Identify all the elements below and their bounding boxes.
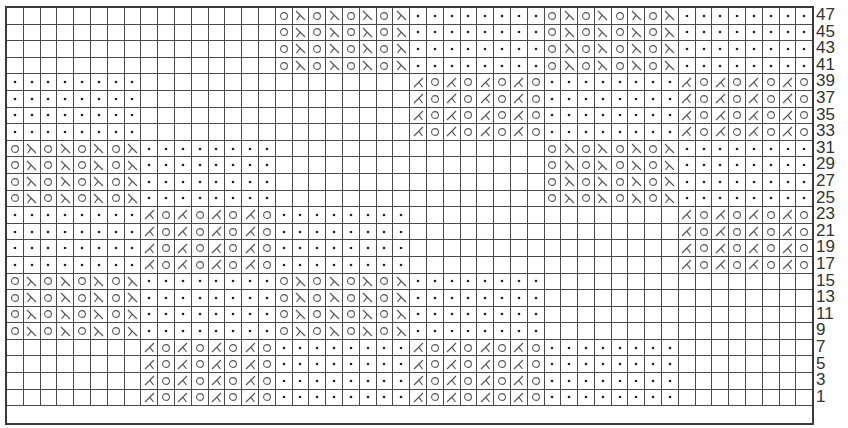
yarn-over-circle-icon xyxy=(527,90,544,107)
yarn-over-circle-icon xyxy=(796,207,813,224)
knit-cell xyxy=(477,240,494,257)
yarn-over-circle-icon xyxy=(527,107,544,124)
knit-cell xyxy=(57,389,74,406)
knit-cell xyxy=(410,240,427,257)
purl-dot-icon xyxy=(779,7,796,24)
knit-cell xyxy=(376,190,393,207)
knit-cell xyxy=(292,190,309,207)
purl-dot-icon xyxy=(275,356,292,373)
knit-cell xyxy=(645,273,662,290)
purl-dot-icon xyxy=(494,306,511,323)
k2tog-decrease-icon xyxy=(242,240,259,257)
purl-dot-icon xyxy=(124,240,141,257)
knit-cell xyxy=(695,323,712,340)
knit-cell xyxy=(443,223,460,240)
yarn-over-circle-icon xyxy=(107,190,124,207)
knit-cell xyxy=(695,306,712,323)
row-label: 1 xyxy=(816,389,825,406)
k2tog-decrease-icon xyxy=(779,207,796,224)
purl-dot-icon xyxy=(359,339,376,356)
purl-dot-icon xyxy=(191,273,208,290)
purl-dot-icon xyxy=(477,306,494,323)
yarn-over-circle-icon xyxy=(611,190,628,207)
purl-dot-icon xyxy=(57,90,74,107)
ssk-decrease-icon xyxy=(292,24,309,41)
yarn-over-circle-icon xyxy=(796,223,813,240)
purl-dot-icon xyxy=(678,190,695,207)
knit-cell xyxy=(141,24,158,41)
yarn-over-circle-icon xyxy=(695,124,712,141)
k2tog-decrease-icon xyxy=(410,339,427,356)
purl-dot-icon xyxy=(292,256,309,273)
ssk-decrease-icon xyxy=(23,306,40,323)
knit-cell xyxy=(796,339,813,356)
yarn-over-circle-icon xyxy=(258,223,275,240)
yarn-over-circle-icon xyxy=(645,173,662,190)
knit-cell xyxy=(561,273,578,290)
purl-dot-icon xyxy=(242,323,259,340)
k2tog-decrease-icon xyxy=(746,124,763,141)
purl-dot-icon xyxy=(57,207,74,224)
k2tog-decrease-icon xyxy=(174,389,191,406)
knit-cell xyxy=(393,157,410,174)
purl-dot-icon xyxy=(645,107,662,124)
purl-dot-icon xyxy=(477,41,494,58)
ssk-decrease-icon xyxy=(393,306,410,323)
purl-dot-icon xyxy=(141,140,158,157)
knit-cell xyxy=(729,373,746,390)
purl-dot-icon xyxy=(141,173,158,190)
yarn-over-circle-icon xyxy=(158,240,175,257)
yarn-over-circle-icon xyxy=(191,373,208,390)
yarn-over-circle-icon xyxy=(275,57,292,74)
knit-cell xyxy=(628,290,645,307)
purl-dot-icon xyxy=(695,190,712,207)
k2tog-decrease-icon xyxy=(678,240,695,257)
purl-dot-icon xyxy=(628,90,645,107)
knit-cell xyxy=(645,223,662,240)
k2tog-decrease-icon xyxy=(208,339,225,356)
yarn-over-circle-icon xyxy=(527,339,544,356)
knit-cell xyxy=(628,223,645,240)
yarn-over-circle-icon xyxy=(107,173,124,190)
ssk-decrease-icon xyxy=(594,173,611,190)
yarn-over-circle-icon xyxy=(544,41,561,58)
knit-cell xyxy=(494,223,511,240)
yarn-over-circle-icon xyxy=(494,90,511,107)
purl-dot-icon xyxy=(174,290,191,307)
purl-dot-icon xyxy=(309,389,326,406)
knit-cell xyxy=(359,157,376,174)
knit-cell xyxy=(141,41,158,58)
purl-dot-icon xyxy=(309,256,326,273)
yarn-over-circle-icon xyxy=(796,107,813,124)
ssk-decrease-icon xyxy=(359,306,376,323)
knit-cell xyxy=(158,24,175,41)
k2tog-decrease-icon xyxy=(678,90,695,107)
knit-cell xyxy=(494,173,511,190)
knit-cell xyxy=(90,373,107,390)
knit-cell xyxy=(23,41,40,58)
yarn-over-circle-icon xyxy=(762,74,779,91)
knit-cell xyxy=(23,339,40,356)
k2tog-decrease-icon xyxy=(779,256,796,273)
knit-cell xyxy=(746,290,763,307)
k2tog-decrease-icon xyxy=(242,373,259,390)
knit-cell xyxy=(527,140,544,157)
knit-cell xyxy=(561,207,578,224)
purl-dot-icon xyxy=(393,356,410,373)
yarn-over-circle-icon xyxy=(578,157,595,174)
knit-cell xyxy=(729,290,746,307)
knit-cell xyxy=(57,24,74,41)
purl-dot-icon xyxy=(762,140,779,157)
knit-cell xyxy=(410,157,427,174)
knit-cell xyxy=(107,373,124,390)
knit-cell xyxy=(225,124,242,141)
purl-dot-icon xyxy=(594,90,611,107)
knit-cell xyxy=(309,107,326,124)
k2tog-decrease-icon xyxy=(174,207,191,224)
k2tog-decrease-icon xyxy=(746,240,763,257)
yarn-over-circle-icon xyxy=(107,290,124,307)
purl-dot-icon xyxy=(460,290,477,307)
k2tog-decrease-icon xyxy=(477,90,494,107)
yarn-over-circle-icon xyxy=(645,57,662,74)
knit-cell xyxy=(40,24,57,41)
